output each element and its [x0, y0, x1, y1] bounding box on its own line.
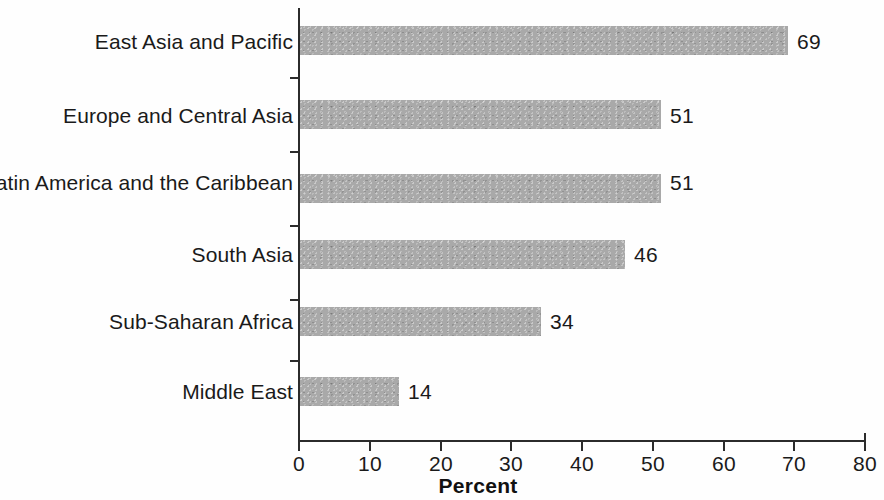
bar-value-label: 14: [408, 380, 432, 404]
x-axis-tick: [440, 442, 442, 451]
x-tick-label: 20: [429, 452, 453, 476]
x-tick-label: 0: [293, 452, 305, 476]
x-tick-label: 50: [641, 452, 665, 476]
bar: [300, 174, 661, 203]
bar: [300, 307, 541, 336]
category-label: Latin America and the Caribbean: [0, 171, 293, 195]
x-tick-label: 60: [712, 452, 736, 476]
bar-value-label: 51: [670, 104, 694, 128]
x-tick-label: 70: [782, 452, 806, 476]
category-label: Middle East: [182, 380, 293, 404]
bar: [300, 240, 625, 269]
x-axis-tick: [864, 442, 866, 451]
x-axis-title-text: Percent: [438, 474, 517, 498]
category-label: East Asia and Pacific: [95, 30, 293, 54]
x-axis-tick: [510, 442, 512, 451]
bar-value-label: 51: [670, 171, 694, 195]
x-tick-label: 80: [853, 452, 877, 476]
x-axis-tick: [723, 442, 725, 451]
x-axis-tick: [581, 442, 583, 451]
category-label: Europe and Central Asia: [63, 104, 293, 128]
bar: [300, 100, 661, 129]
x-axis-tick: [369, 442, 371, 451]
y-axis-tick: [290, 299, 299, 301]
y-axis-tick: [290, 225, 299, 227]
bar: [300, 26, 788, 55]
y-axis-tick: [290, 151, 299, 153]
x-axis-tick: [652, 442, 654, 451]
x-axis-end-cap: [864, 433, 866, 442]
bar-value-label: 69: [797, 30, 821, 54]
y-axis-tick: [290, 360, 299, 362]
x-axis-start-cap: [298, 433, 300, 442]
x-axis-tick: [298, 442, 300, 451]
x-tick-label: 40: [570, 452, 594, 476]
bar: [300, 377, 399, 406]
category-label: South Asia: [192, 243, 293, 267]
bar-chart-figure: 0 10 20 30 40 50 60 70 80 East Asia and …: [0, 0, 884, 500]
bar-value-label: 34: [550, 310, 574, 334]
y-axis-tick: [290, 77, 299, 79]
x-tick-label: 10: [358, 452, 382, 476]
x-tick-label: 30: [499, 452, 523, 476]
x-axis-tick: [793, 442, 795, 451]
bar-value-label: 46: [634, 243, 658, 267]
category-label: Sub-Saharan Africa: [109, 310, 293, 334]
x-axis-title: Percent: [0, 474, 884, 498]
